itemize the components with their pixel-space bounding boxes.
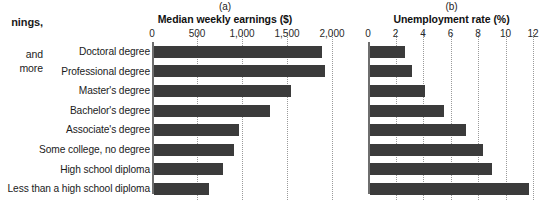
tick-label: 2,000 [319,28,344,40]
category-label: Professional degree [61,62,150,82]
bar [154,183,210,195]
bar-row [154,160,332,180]
gridline [533,32,534,200]
tick-label: 12 [527,28,538,40]
category-label: Less than a high school diploma [8,179,150,199]
panel-a: (a) Median weekly earnings ($) Doctoral … [46,0,346,204]
bar [370,183,529,195]
panel-b-letter: (b) [356,1,547,13]
tick-label: 4 [420,28,426,40]
bar-row [370,120,533,140]
category-label: Bachelor's degree [70,101,150,121]
margin-text-line-1: nings, [11,16,43,28]
bar [154,65,326,77]
tick-label: 1,500 [274,28,299,40]
category-label: Associate's degree [66,120,150,140]
margin-text: nings, and more [0,0,46,204]
bar-row [154,81,332,101]
panel-b-bars [370,42,533,194]
margin-text-line-3: more [19,62,43,74]
bar-row [154,101,332,121]
bar [370,105,445,117]
bar-row [370,179,533,199]
bar-row [370,81,533,101]
bar-row [370,140,533,160]
bar-row [154,62,332,82]
bar [370,144,483,156]
figure-container: nings, and more (a) Median weekly earnin… [0,0,547,204]
category-label: Master's degree [79,81,150,101]
bar [154,124,240,136]
bar [154,46,322,58]
tick-label: 2 [393,28,399,40]
tick-label: 0 [365,28,371,40]
panel-a-title: Median weekly earnings ($) [46,13,346,26]
bar-row [154,120,332,140]
bar [154,105,270,117]
panel-a-plot-area: 05001,0001,5002,000 [152,42,332,200]
tick-label: 10 [500,28,511,40]
bar-row [154,140,332,160]
panel-b-title: Unemployment rate (%) [356,13,547,26]
bar [370,124,467,136]
tick-label: 1,000 [229,28,254,40]
bar-row [154,42,332,62]
bar-row [154,179,332,199]
bar-row [370,62,533,82]
panel-a-letter: (a) [46,1,346,13]
bar-row [370,42,533,62]
panel-b-plot-area: 024681012 [368,42,533,200]
tick-label: 6 [448,28,454,40]
bar-row [370,160,533,180]
tick-label: 0 [149,28,155,40]
category-axis-labels: Doctoral degreeProfessional degreeMaster… [46,42,150,194]
bar [154,163,224,175]
bar [370,163,493,175]
bar [154,85,292,97]
bar-row [370,101,533,121]
bar [370,46,405,58]
category-label: High school diploma [60,160,150,180]
bar [370,65,412,77]
panel-a-bars [154,42,332,194]
bar [370,85,426,97]
category-label: Doctoral degree [79,42,150,62]
gridline [332,32,333,200]
margin-text-line-2: and [26,48,43,60]
bar [154,144,234,156]
tick-label: 8 [475,28,481,40]
category-label: Some college, no degree [39,140,150,160]
tick-label: 500 [189,28,206,40]
panel-b: (b) Unemployment rate (%) 024681012 [356,0,547,204]
